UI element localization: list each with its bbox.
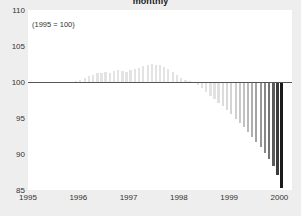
bar — [172, 72, 174, 82]
bar — [255, 82, 257, 142]
x-axis-tick: 1997 — [120, 193, 138, 202]
bar — [159, 65, 161, 82]
bar — [109, 73, 111, 82]
bar — [138, 68, 140, 82]
x-axis-tick: 1995 — [19, 193, 37, 202]
x-axis: 199519961997199819992000 — [28, 193, 292, 207]
bar — [276, 82, 278, 175]
bar — [260, 82, 262, 147]
y-axis-tick: 90 — [1, 150, 25, 159]
bar — [222, 82, 224, 106]
bar — [129, 70, 131, 82]
bar — [213, 82, 215, 99]
bar — [243, 82, 245, 127]
bar — [264, 82, 266, 153]
bar — [163, 67, 165, 82]
x-axis-tick: 2000 — [271, 193, 289, 202]
bar — [235, 82, 237, 119]
plot-area — [28, 10, 292, 190]
bar — [251, 82, 253, 137]
bar — [142, 66, 144, 82]
bar — [167, 69, 169, 82]
y-axis-tick: 105 — [1, 42, 25, 51]
x-axis-tick: 1996 — [69, 193, 87, 202]
index-base-annotation: (1995 = 100) — [32, 20, 75, 29]
bar — [113, 71, 115, 82]
bar — [272, 82, 274, 166]
bar — [205, 82, 207, 92]
bar — [96, 73, 98, 82]
bar — [100, 73, 102, 82]
baseline-100 — [28, 82, 292, 83]
bar — [280, 82, 282, 188]
bar — [176, 75, 178, 82]
bar — [117, 70, 119, 82]
bar — [147, 65, 149, 82]
x-axis-tick: 1999 — [220, 193, 238, 202]
bar — [151, 64, 153, 82]
bar-series — [28, 10, 292, 190]
bar — [217, 82, 219, 103]
chart-container: monthly (1995 = 100) 110105100959085 199… — [0, 0, 301, 216]
y-axis-tick: 100 — [1, 78, 25, 87]
bar — [125, 72, 127, 82]
bar — [268, 82, 270, 159]
bar — [92, 75, 94, 82]
bar — [121, 71, 123, 82]
bar — [104, 72, 106, 82]
bar — [209, 82, 211, 96]
bar — [239, 82, 241, 123]
y-axis-tick: 110 — [1, 6, 25, 15]
bar — [226, 82, 228, 110]
y-axis-tick: 95 — [1, 114, 25, 123]
chart-title: monthly — [0, 0, 301, 6]
bar — [247, 82, 249, 132]
bar — [230, 82, 232, 114]
y-axis: 110105100959085 — [0, 10, 25, 190]
x-axis-tick: 1998 — [170, 193, 188, 202]
bar — [134, 69, 136, 82]
bar — [155, 65, 157, 82]
